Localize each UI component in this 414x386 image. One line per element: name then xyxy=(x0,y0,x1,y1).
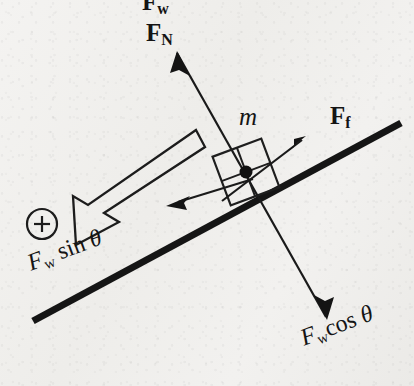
friction-force-subscript: f xyxy=(345,114,350,131)
friction-force-arrowhead xyxy=(286,136,306,152)
physics-free-body-diagram: Fw FN Ff m Fw sin θ Fwcos θ xyxy=(0,0,414,386)
mass-label: m xyxy=(239,104,257,129)
normal-force-arrowhead xyxy=(170,51,190,76)
weight-cropped-subscript: w xyxy=(157,0,169,17)
weight-label-cropped-top: Fw xyxy=(142,0,169,17)
friction-force-label: Ff xyxy=(330,103,351,131)
weight-parallel-line xyxy=(178,179,253,202)
weight-parallel-arrowhead xyxy=(166,196,190,210)
center-of-mass-dot xyxy=(240,166,253,179)
friction-force-symbol: F xyxy=(330,102,345,129)
weight-cropped-symbol: F xyxy=(142,0,157,15)
normal-force-symbol: F xyxy=(146,19,161,46)
incline-surface-line xyxy=(33,123,401,321)
normal-force-label: FN xyxy=(146,20,173,48)
normal-force-subscript: N xyxy=(161,31,173,48)
